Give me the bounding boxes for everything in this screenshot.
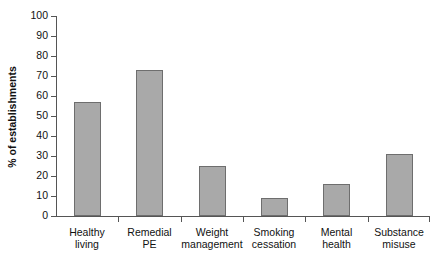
y-tick-50: 50 [51,116,56,117]
y-axis-title: % of establishments [6,12,20,222]
x-label-line-1: Healthy [56,226,118,238]
x-tick-3 [243,217,244,222]
x-label-line-2: cessation [243,238,305,250]
y-tick-label-40: 40 [36,129,48,141]
y-tick-0: 0 [51,216,56,217]
y-tick-10: 10 [51,196,56,197]
x-tick-5 [368,217,369,222]
bar-substance-misuse [386,154,413,216]
x-label-line-1: Mental [305,226,368,238]
y-tick-label-100: 100 [30,9,48,21]
y-tick-label-90: 90 [36,29,48,41]
y-axis-line [56,16,57,217]
y-tick-20: 20 [51,176,56,177]
x-label-healthy-living: Healthy living [56,226,118,250]
x-label-line-1: Weight [179,226,245,238]
y-tick-label-50: 50 [36,109,48,121]
x-label-line-1: Smoking [243,226,305,238]
y-tick-label-80: 80 [36,49,48,61]
y-tick-label-20: 20 [36,169,48,181]
y-tick-90: 90 [51,36,56,37]
x-label-weight-management: Weight management [179,226,245,250]
x-label-substance-misuse: Substance misuse [366,226,432,250]
bar-mental-health [323,184,350,216]
y-tick-30: 30 [51,156,56,157]
x-label-line-1: Substance [366,226,432,238]
y-tick-80: 80 [51,56,56,57]
y-tick-label-30: 30 [36,149,48,161]
x-label-line-2: PE [118,238,181,250]
x-label-line-2: living [56,238,118,250]
x-label-line-1: Remedial [118,226,181,238]
y-tick-60: 60 [51,96,56,97]
plot-area: 0 10 20 30 40 50 60 70 80 90 100 [56,16,430,216]
bar-smoking-cessation [261,198,288,216]
y-tick-40: 40 [51,136,56,137]
x-label-line-2: misuse [366,238,432,250]
bar-weight-management [199,166,226,216]
bar-chart: % of establishments 0 10 20 30 40 50 60 … [0,0,445,265]
x-tick-4 [305,217,306,222]
x-tick-6 [429,217,430,222]
x-label-remedial-pe: Remedial PE [118,226,181,250]
y-tick-100: 100 [51,16,56,17]
y-tick-70: 70 [51,76,56,77]
bar-remedial-pe [136,70,163,216]
x-label-line-2: health [305,238,368,250]
x-label-line-2: management [179,238,245,250]
x-tick-2 [181,217,182,222]
bar-healthy-living [74,102,101,216]
y-tick-label-70: 70 [36,69,48,81]
x-label-mental-health: Mental health [305,226,368,250]
y-tick-label-10: 10 [36,189,48,201]
x-tick-1 [118,217,119,222]
y-tick-label-0: 0 [42,209,48,221]
y-tick-label-60: 60 [36,89,48,101]
x-label-smoking-cessation: Smoking cessation [243,226,305,250]
